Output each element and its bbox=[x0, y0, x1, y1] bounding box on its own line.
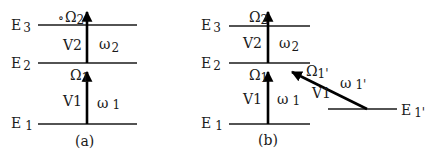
panel-a: E3 E2 E1 ∘ Ω2 V2 ω2 Ω1 V1 ω1 (a) bbox=[11, 9, 137, 149]
freq-label-w1: ω1 bbox=[277, 91, 300, 108]
energy-level-diagram: E3 E2 E1 ∘ Ω2 V2 ω2 Ω1 V1 ω1 (a) E3 E2 E… bbox=[0, 0, 430, 156]
rabi-label-omega1: Ω1 bbox=[70, 67, 89, 85]
freq-label-w2: ω2 bbox=[279, 35, 299, 54]
panel-caption-a: (a) bbox=[75, 133, 94, 149]
rabi-label-omega1-prime: Ω1' bbox=[306, 63, 329, 81]
panel-caption-b: (b) bbox=[258, 132, 278, 148]
coupling-label-v2: V2 bbox=[242, 35, 262, 51]
level-label-e1: E1 bbox=[201, 115, 223, 133]
panel-b: E3 E2 E1 E1' Ω2 V2 ω2 Ω1 V1 ω1 Ω1' V1 ω1… bbox=[201, 9, 425, 148]
level-label-e1: E1 bbox=[11, 115, 33, 133]
level-label-e1-prime: E1' bbox=[401, 102, 425, 120]
freq-label-w2: ω2 bbox=[99, 36, 119, 55]
marker-dot: ∘ bbox=[58, 11, 64, 25]
rabi-label-omega2: Ω2 bbox=[249, 9, 268, 27]
coupling-label-v1-prime: V1 bbox=[311, 85, 331, 101]
coupling-label-v2: V2 bbox=[62, 37, 82, 53]
rabi-label-omega2: Ω2 bbox=[65, 9, 84, 27]
rabi-label-omega1: Ω1 bbox=[249, 67, 268, 85]
level-label-e3: E3 bbox=[201, 17, 221, 35]
level-label-e2: E2 bbox=[201, 55, 221, 73]
freq-label-w1: ω1 bbox=[97, 95, 120, 112]
coupling-label-v1: V1 bbox=[242, 91, 262, 107]
level-label-e2: E2 bbox=[11, 55, 31, 73]
freq-label-w1-prime: ω1' bbox=[340, 75, 366, 92]
level-label-e3: E3 bbox=[11, 17, 31, 35]
coupling-label-v1: V1 bbox=[62, 93, 82, 109]
